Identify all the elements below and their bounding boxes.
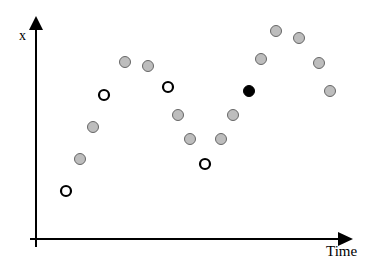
data-point-gray-circle-icon: [120, 57, 131, 68]
data-point-gray-circle-icon: [185, 134, 196, 145]
data-point-open-circle-icon: [61, 186, 71, 196]
data-point-gray-circle-icon: [294, 33, 305, 44]
data-points: [61, 26, 336, 197]
data-point-open-circle-icon: [99, 90, 109, 100]
data-point-open-circle-icon: [200, 159, 210, 169]
data-point-gray-circle-icon: [271, 26, 282, 37]
data-point-gray-circle-icon: [173, 110, 184, 121]
data-point-gray-circle-icon: [143, 61, 154, 72]
data-point-gray-circle-icon: [256, 54, 267, 65]
data-point-gray-circle-icon: [88, 122, 99, 133]
data-point-gray-circle-icon: [75, 154, 86, 165]
x-axis-label: Time: [326, 243, 357, 260]
data-point-gray-circle-icon: [216, 134, 227, 145]
y-axis-label: x: [19, 28, 26, 44]
data-point-gray-circle-icon: [228, 110, 239, 121]
data-point-black-circle-icon: [244, 86, 255, 97]
data-point-gray-circle-icon: [325, 86, 336, 97]
data-point-gray-circle-icon: [314, 58, 325, 69]
y-axis-arrow-icon: [29, 16, 43, 30]
diagram-canvas: [0, 0, 376, 267]
data-point-open-circle-icon: [163, 82, 173, 92]
